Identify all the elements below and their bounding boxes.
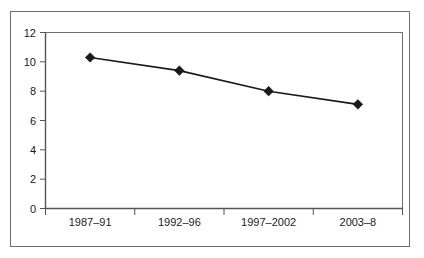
y-tick-label-12: 12 — [24, 27, 36, 39]
y-tick-label-2: 2 — [30, 173, 36, 185]
y-axis-ticks — [40, 33, 45, 209]
y-tick-label-10: 10 — [24, 56, 36, 68]
x-category-label-1: 1992–96 — [158, 216, 201, 228]
y-axis-tick-labels: 0 2 4 6 8 10 12 — [24, 27, 36, 215]
y-tick-label-6: 6 — [30, 115, 36, 127]
chart-figure: 0 2 4 6 8 10 12 1987–91 1992–96 1997–20 — [0, 0, 424, 258]
x-category-label-0: 1987–91 — [69, 216, 112, 228]
x-axis-ticks — [46, 209, 403, 215]
x-axis-category-labels: 1987–91 1992–96 1997–2002 2003–8 — [69, 216, 377, 228]
x-category-label-2: 1997–2002 — [241, 216, 296, 228]
line-chart-canvas: 0 2 4 6 8 10 12 1987–91 1992–96 1997–20 — [11, 12, 409, 246]
y-tick-label-0: 0 — [30, 203, 36, 215]
y-tick-label-8: 8 — [30, 85, 36, 97]
y-tick-label-4: 4 — [30, 144, 36, 156]
chart-outer-frame: 0 2 4 6 8 10 12 1987–91 1992–96 1997–20 — [10, 11, 410, 247]
x-category-label-3: 2003–8 — [340, 216, 377, 228]
